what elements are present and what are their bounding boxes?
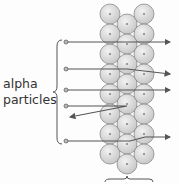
nucleus-dot	[109, 73, 111, 75]
nucleus-dot	[143, 113, 145, 115]
nucleus-dot	[109, 13, 111, 15]
nucleus-dot	[143, 93, 145, 95]
nucleus-dot	[126, 83, 128, 85]
alpha-particle-source	[64, 67, 68, 71]
nucleus-dot	[143, 73, 145, 75]
alpha-particle-source	[64, 88, 68, 92]
nucleus-dot	[126, 43, 128, 45]
alpha-particle-source	[64, 40, 68, 44]
nucleus-dot	[143, 153, 145, 155]
gold-atoms	[100, 4, 154, 174]
label-line-2: particles	[3, 92, 57, 108]
nucleus-dot	[126, 123, 128, 125]
nucleus-dot	[143, 13, 145, 15]
bottom-brace-icon	[105, 176, 153, 182]
nucleus-dot	[109, 33, 111, 35]
nucleus-dot	[143, 33, 145, 35]
nucleus-dot	[109, 53, 111, 55]
alpha-particles-label: alpha particles	[3, 76, 57, 108]
nucleus-dot	[126, 143, 128, 145]
nucleus-dot	[109, 113, 111, 115]
nucleus-dot	[109, 153, 111, 155]
nucleus-dot	[143, 53, 145, 55]
gold-foil-diagram: alpha particles	[0, 0, 179, 184]
nucleus-dot	[126, 23, 128, 25]
nucleus-dot	[126, 163, 128, 165]
nucleus-dot	[143, 133, 145, 135]
label-line-1: alpha	[3, 76, 57, 92]
nucleus-dot	[109, 93, 111, 95]
nucleus-dot	[109, 133, 111, 135]
nucleus-dot	[126, 103, 128, 105]
alpha-particle-source	[64, 104, 68, 108]
nucleus-dot	[126, 63, 128, 65]
alpha-particle-source	[64, 139, 68, 143]
